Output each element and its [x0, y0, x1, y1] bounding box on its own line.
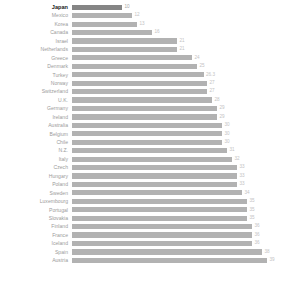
category-label: Hungary — [0, 172, 72, 180]
bar-value-label: 32 — [232, 155, 240, 163]
category-label: Chile — [0, 138, 72, 146]
bar-track: 29 — [72, 104, 288, 112]
category-label: Denmark — [0, 62, 72, 70]
bar-row: France36 — [0, 231, 288, 239]
bar-track: 38 — [72, 248, 288, 256]
bar-track: 26.3 — [72, 71, 288, 79]
bar — [72, 81, 207, 86]
bar-row: Poland33 — [0, 180, 288, 188]
bar-value-label: 33 — [237, 180, 245, 188]
bar-row: Germany29 — [0, 104, 288, 112]
bar-value-label: 36 — [252, 231, 260, 239]
category-label: Poland — [0, 180, 72, 188]
bar-track: 33 — [72, 180, 288, 188]
bar-value-label: 36 — [252, 239, 260, 247]
bar — [72, 106, 217, 111]
bar-row: Belgium30 — [0, 130, 288, 138]
bar — [72, 199, 247, 204]
bar-value-label: 29 — [217, 113, 225, 121]
category-label: Mexico — [0, 11, 72, 19]
category-label: N.Z. — [0, 146, 72, 154]
bar-track: 30 — [72, 138, 288, 146]
bar — [72, 157, 232, 162]
bar — [72, 182, 237, 187]
bar — [72, 64, 197, 69]
category-label: Turkey — [0, 71, 72, 79]
bar — [72, 89, 207, 94]
bar-value-label: 21 — [177, 45, 185, 53]
bar-value-label: 26.3 — [204, 71, 215, 79]
bar-track: 21 — [72, 37, 288, 45]
category-label: Greece — [0, 54, 72, 62]
bar-track: 24 — [72, 54, 288, 62]
bar — [72, 232, 252, 237]
bar-value-label: 35 — [247, 197, 255, 205]
bar — [72, 249, 262, 254]
bar-track: 28 — [72, 96, 288, 104]
bar-track: 35 — [72, 214, 288, 222]
bar-row: Denmark25 — [0, 62, 288, 70]
bar-track: 13 — [72, 20, 288, 28]
bar — [72, 97, 212, 102]
bar-track: 34 — [72, 189, 288, 197]
category-label: Korea — [0, 20, 72, 28]
bar-value-label: 33 — [237, 172, 245, 180]
bar-row: Hungary33 — [0, 172, 288, 180]
bar-value-label: 39 — [267, 256, 275, 264]
bar — [72, 165, 237, 170]
bar-track: 10 — [72, 3, 288, 11]
bar-row: Australia30 — [0, 121, 288, 129]
bar-row: Greece24 — [0, 54, 288, 62]
bar-row: Slovakia35 — [0, 214, 288, 222]
bar-value-label: 33 — [237, 163, 245, 171]
bar-track: 27 — [72, 87, 288, 95]
category-label: Japan — [0, 3, 72, 11]
bar-chart: Japan10Mexico12Korea13Canada16Israel21Ne… — [0, 0, 288, 289]
bar-row: Canada16 — [0, 28, 288, 36]
category-label: Spain — [0, 248, 72, 256]
bar-row: Czech33 — [0, 163, 288, 171]
category-label: Canada — [0, 28, 72, 36]
category-label: Austria — [0, 256, 72, 264]
bar-track: 30 — [72, 130, 288, 138]
bar-row: Luxembourg35 — [0, 197, 288, 205]
bar-track: 30 — [72, 121, 288, 129]
category-label: Switzerland — [0, 87, 72, 95]
bar-value-label: 27 — [207, 87, 215, 95]
bar-value-label: 29 — [217, 104, 225, 112]
bar-value-label: 30 — [222, 130, 230, 138]
bar-row: Norway27 — [0, 79, 288, 87]
bar-value-label: 30 — [222, 138, 230, 146]
bar — [72, 30, 152, 35]
bar-track: 12 — [72, 11, 288, 19]
bar — [72, 55, 192, 60]
bar-row: Austria39 — [0, 256, 288, 264]
bar-value-label: 10 — [122, 3, 130, 11]
bar — [72, 258, 267, 263]
bar-track: 39 — [72, 256, 288, 264]
bar-track: 33 — [72, 172, 288, 180]
bar — [72, 114, 217, 119]
bar — [72, 123, 222, 128]
bar — [72, 216, 247, 221]
bar-value-label: 13 — [137, 20, 145, 28]
category-label: Iceland — [0, 239, 72, 247]
bar-value-label: 35 — [247, 206, 255, 214]
category-label: U.K. — [0, 96, 72, 104]
bar-value-label: 31 — [227, 146, 235, 154]
bar-track: 29 — [72, 113, 288, 121]
category-label: Sweden — [0, 189, 72, 197]
category-label: Belgium — [0, 130, 72, 138]
category-label: Czech — [0, 163, 72, 171]
bar-track: 35 — [72, 197, 288, 205]
bar-row: Iceland36 — [0, 239, 288, 247]
bar — [72, 47, 177, 52]
category-label: Norway — [0, 79, 72, 87]
bar-track: 36 — [72, 239, 288, 247]
bar-track: 33 — [72, 163, 288, 171]
bar-track: 27 — [72, 79, 288, 87]
bar-row: Finland36 — [0, 222, 288, 230]
bar-track: 31 — [72, 146, 288, 154]
category-label: Italy — [0, 155, 72, 163]
bar-row: Turkey26.3 — [0, 71, 288, 79]
